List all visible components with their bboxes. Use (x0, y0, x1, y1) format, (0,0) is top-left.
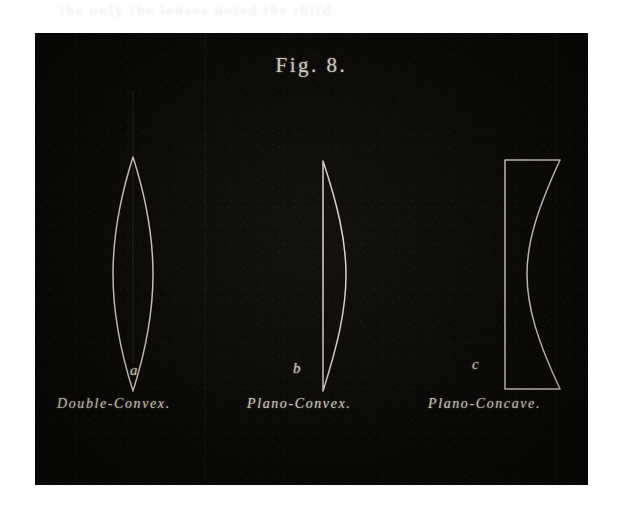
lens-label-a: a (130, 362, 138, 379)
lens-shape-plano-convex (323, 161, 346, 391)
page-bleed-through-text: the only the lenses noted the third (60, 2, 560, 24)
lens-label-c: c (472, 356, 479, 373)
lens-label-b: b (293, 360, 301, 377)
figure-plate: Fig. 8. a b c Double-Convex. Plano-Conve… (35, 33, 588, 485)
lens-caption-double-convex: Double-Convex. (57, 396, 171, 412)
lens-diagram-drawing (35, 33, 588, 485)
lens-caption-plano-convex: Plano-Convex. (247, 396, 351, 412)
lens-shape-plano-concave (505, 160, 560, 389)
lens-caption-plano-concave: Plano-Concave. (428, 396, 541, 412)
